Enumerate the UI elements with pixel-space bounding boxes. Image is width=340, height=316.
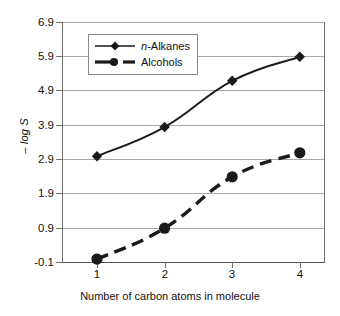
legend-label-n-alkanes: n-Alkanes <box>141 40 190 52</box>
legend-label-rest: -Alkanes <box>147 40 190 52</box>
legend-label-alcohols: Alcohols <box>141 56 183 68</box>
legend-item-n-alkanes: n-Alkanes <box>94 38 190 54</box>
x-tick-label: 3 <box>212 268 252 280</box>
chart-figure: – log S 6.9 5.9 4.9 3.9 2.9 1.9 0.9 -0.1 <box>0 0 340 316</box>
x-tick-label: 1 <box>77 268 117 280</box>
x-tick-label: 2 <box>145 268 185 280</box>
legend-label-rest: Alcohols <box>141 56 183 68</box>
x-tick-label: 4 <box>280 268 320 280</box>
legend-key-dashed-circle-icon <box>94 55 136 69</box>
legend-key-solid-diamond-icon <box>94 39 136 53</box>
chart-legend: n-Alkanes Alcohols <box>88 34 198 75</box>
x-axis-label: Number of carbon atoms in molecule <box>0 290 340 302</box>
legend-item-alcohols: Alcohols <box>94 54 190 70</box>
